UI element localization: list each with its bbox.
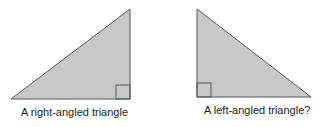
right-angled-triangle — [11, 9, 130, 99]
left-angled-triangle-shape — [197, 9, 311, 97]
left-angled-triangle-caption: A left-angled triangle? — [204, 104, 310, 116]
right-angled-triangle-shape — [11, 9, 130, 99]
left-angled-triangle — [197, 9, 311, 97]
right-angled-triangle-caption: A right-angled triangle — [21, 106, 128, 118]
